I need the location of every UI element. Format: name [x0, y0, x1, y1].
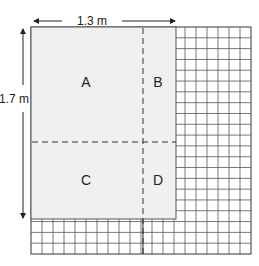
height-dimension: 1.7 m: [0, 29, 29, 218]
width-dimension: 1.3 m: [34, 14, 175, 28]
region-label-a: A: [81, 74, 91, 90]
width-label: 1.3 m: [77, 14, 107, 28]
region-label-b: B: [153, 74, 162, 90]
region-label-c: C: [81, 172, 91, 188]
shaded-rectangle: [31, 27, 176, 219]
height-label: 1.7 m: [0, 92, 29, 106]
area-diagram: 1.3 m 1.7 m A B C D: [0, 0, 259, 266]
region-label-d: D: [153, 172, 163, 188]
